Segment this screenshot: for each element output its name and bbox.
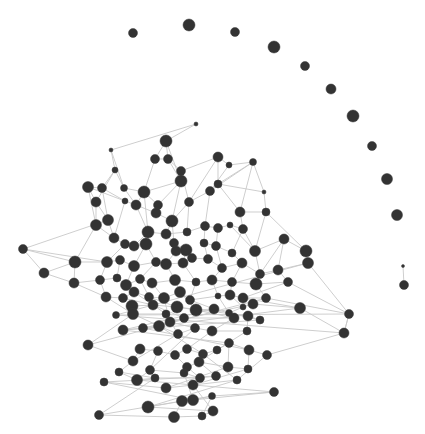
graph-node[interactable] xyxy=(151,374,159,382)
graph-node[interactable] xyxy=(339,328,349,338)
graph-node[interactable] xyxy=(194,122,198,126)
graph-node[interactable] xyxy=(204,255,213,264)
graph-node[interactable] xyxy=(225,339,234,348)
graph-node[interactable] xyxy=(154,321,165,332)
graph-node[interactable] xyxy=(100,378,108,386)
graph-node[interactable] xyxy=(142,226,154,238)
graph-node[interactable] xyxy=(162,310,170,318)
graph-node[interactable] xyxy=(303,258,314,269)
graph-node[interactable] xyxy=(226,162,232,168)
graph-node[interactable] xyxy=(147,278,157,288)
graph-node[interactable] xyxy=(175,287,186,298)
isolated-node[interactable] xyxy=(326,84,336,94)
graph-node[interactable] xyxy=(146,366,155,375)
graph-node[interactable] xyxy=(180,369,188,377)
graph-node[interactable] xyxy=(191,324,200,333)
graph-node[interactable] xyxy=(213,346,221,354)
graph-node[interactable] xyxy=(121,185,128,192)
graph-node[interactable] xyxy=(102,257,113,268)
graph-node[interactable] xyxy=(91,220,102,231)
graph-node[interactable] xyxy=(19,245,28,254)
graph-node[interactable] xyxy=(148,300,158,310)
graph-node[interactable] xyxy=(170,275,181,286)
graph-node[interactable] xyxy=(115,368,123,376)
graph-node[interactable] xyxy=(250,159,257,166)
graph-node[interactable] xyxy=(98,184,107,193)
graph-node[interactable] xyxy=(69,278,79,288)
graph-node[interactable] xyxy=(244,365,252,373)
graph-node[interactable] xyxy=(121,240,130,249)
graph-node[interactable] xyxy=(128,356,138,366)
graph-node[interactable] xyxy=(284,278,293,287)
isolated-node[interactable] xyxy=(268,41,280,53)
graph-node[interactable] xyxy=(175,175,187,187)
isolated-node[interactable] xyxy=(231,28,240,37)
graph-node[interactable] xyxy=(270,388,279,397)
graph-node[interactable] xyxy=(243,327,251,335)
graph-node[interactable] xyxy=(129,241,139,251)
graph-node[interactable] xyxy=(129,261,140,272)
graph-node[interactable] xyxy=(273,265,283,275)
pair-node[interactable] xyxy=(402,265,405,268)
graph-node[interactable] xyxy=(295,303,306,314)
graph-node[interactable] xyxy=(240,304,246,310)
graph-node[interactable] xyxy=(263,351,272,360)
graph-node[interactable] xyxy=(159,293,170,304)
graph-node[interactable] xyxy=(109,148,113,152)
graph-node[interactable] xyxy=(212,242,221,251)
graph-node[interactable] xyxy=(171,351,180,360)
graph-node[interactable] xyxy=(136,275,145,284)
graph-node[interactable] xyxy=(235,207,245,217)
graph-node[interactable] xyxy=(161,383,171,393)
graph-node[interactable] xyxy=(183,228,191,236)
graph-node[interactable] xyxy=(161,259,172,270)
graph-node[interactable] xyxy=(213,152,223,162)
graph-node[interactable] xyxy=(152,258,161,267)
isolated-node[interactable] xyxy=(183,19,195,31)
graph-node[interactable] xyxy=(142,401,154,413)
graph-node[interactable] xyxy=(151,155,160,164)
graph-node[interactable] xyxy=(196,374,205,383)
graph-node[interactable] xyxy=(135,344,145,354)
graph-node[interactable] xyxy=(131,200,141,210)
graph-node[interactable] xyxy=(185,198,194,207)
graph-node[interactable] xyxy=(229,313,239,323)
graph-node[interactable] xyxy=(244,345,254,355)
graph-node[interactable] xyxy=(83,182,94,193)
graph-node[interactable] xyxy=(190,304,202,316)
graph-node[interactable] xyxy=(161,229,171,239)
graph-node[interactable] xyxy=(201,222,210,231)
graph-node[interactable] xyxy=(243,311,253,321)
graph-node[interactable] xyxy=(139,324,148,333)
graph-node[interactable] xyxy=(101,292,111,302)
isolated-node[interactable] xyxy=(301,62,310,71)
graph-node[interactable] xyxy=(177,396,188,407)
graph-node[interactable] xyxy=(233,376,241,384)
graph-node[interactable] xyxy=(300,245,312,257)
graph-node[interactable] xyxy=(239,225,248,234)
graph-node[interactable] xyxy=(83,340,93,350)
graph-node[interactable] xyxy=(192,278,200,286)
graph-node[interactable] xyxy=(113,274,121,282)
isolated-node[interactable] xyxy=(129,29,138,38)
graph-node[interactable] xyxy=(207,326,217,336)
graph-node[interactable] xyxy=(214,224,223,233)
graph-node[interactable] xyxy=(160,135,172,147)
graph-node[interactable] xyxy=(138,186,150,198)
graph-node[interactable] xyxy=(256,270,265,279)
graph-node[interactable] xyxy=(250,246,261,257)
graph-node[interactable] xyxy=(225,290,235,300)
graph-node[interactable] xyxy=(279,234,289,244)
graph-node[interactable] xyxy=(208,406,218,416)
graph-node[interactable] xyxy=(198,412,206,420)
graph-node[interactable] xyxy=(95,411,104,420)
graph-node[interactable] xyxy=(345,310,354,319)
graph-node[interactable] xyxy=(228,278,237,287)
graph-node[interactable] xyxy=(154,347,163,356)
graph-node[interactable] xyxy=(256,316,264,324)
graph-node[interactable] xyxy=(116,256,125,265)
graph-node[interactable] xyxy=(214,180,222,188)
graph-node[interactable] xyxy=(207,275,217,285)
graph-node[interactable] xyxy=(183,345,192,354)
graph-node[interactable] xyxy=(113,312,120,319)
